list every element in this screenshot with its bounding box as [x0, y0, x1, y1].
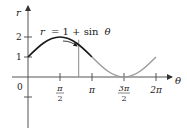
theta-axis-label: θ [175, 75, 181, 86]
x-tick-label-3pi-half-den: 2 [121, 94, 126, 103]
x-tick-label-2pi: 2π [149, 85, 163, 95]
y-tick-label-1: 1 [16, 52, 22, 62]
origin-label: 0 [17, 82, 23, 92]
equation-rest: = 1 + sin [51, 26, 99, 37]
x-tick-label-3pi-half-num: 3π [119, 84, 130, 93]
equation-annotation: r = 1 + sin θ [40, 26, 111, 37]
equation-r: r [40, 26, 46, 37]
x-tick-label-pi-half-num: π [56, 84, 63, 93]
y-tick-label-2: 2 [16, 32, 22, 42]
equation-theta: θ [105, 26, 111, 37]
x-tick-label-pi: π [88, 85, 96, 95]
curve-dark-segment [28, 37, 92, 57]
polar-graph-figure: r θ 0 2 1 π 2 π 3π 2 2π r = 1 + sin θ [0, 0, 187, 132]
x-tick-label-pi-half-den: 2 [57, 94, 62, 103]
r-axis-label: r [16, 7, 22, 18]
